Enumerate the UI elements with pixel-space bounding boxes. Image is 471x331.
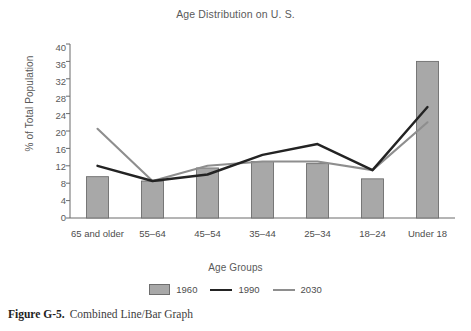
x-axis-label: Age Groups	[0, 262, 471, 273]
bar-series-1960	[87, 61, 439, 218]
legend-item-1960[interactable]: 1960	[149, 284, 197, 295]
x-tick-label-5: 18–24	[345, 229, 400, 239]
x-tick-label-1: 55–64	[125, 229, 180, 239]
bar-3	[252, 161, 274, 218]
figure-caption-text: Combined Line/Bar Graph	[70, 308, 193, 320]
x-tick-label-4: 25–34	[290, 229, 345, 239]
x-tick-label-0: 65 and older	[70, 229, 125, 239]
legend-label-1990: 1990	[238, 284, 259, 295]
x-tick-label-2: 45–54	[180, 229, 235, 239]
legend-bar-swatch-icon	[149, 284, 170, 295]
x-tick-label-3: 35–44	[235, 229, 290, 239]
figure-caption: Figure G-5.Combined Line/Bar Graph	[8, 308, 193, 320]
bar-6	[417, 61, 439, 218]
figure-container: Age Distribution on U. S. % of Total Pop…	[0, 0, 471, 331]
figure-number: Figure G-5.	[8, 308, 65, 320]
bar-4	[307, 164, 329, 218]
plot-area: % of Total Population 40 36 32 28 24 20 …	[0, 0, 471, 302]
bar-1	[142, 181, 164, 218]
legend-label-2030: 2030	[301, 284, 322, 295]
legend-item-2030[interactable]: 2030	[273, 284, 322, 295]
legend-label-1960: 1960	[176, 284, 197, 295]
legend-item-1990[interactable]: 1990	[210, 284, 259, 295]
x-tick-label-6: Under 18	[400, 229, 455, 239]
legend-line-swatch-icon	[210, 289, 232, 291]
bar-5	[362, 179, 384, 218]
chart-canvas: Age Distribution on U. S. % of Total Pop…	[0, 0, 471, 302]
chart-legend: 1960 1990 2030	[0, 284, 471, 295]
legend-line-swatch-gray-icon	[273, 289, 295, 291]
plot-graphics	[0, 0, 471, 302]
bar-0	[87, 177, 109, 218]
